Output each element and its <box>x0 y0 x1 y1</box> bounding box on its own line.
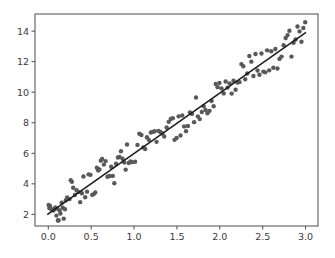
data-point <box>279 54 283 58</box>
data-point <box>103 159 107 163</box>
y-tick-label: 12 <box>17 56 29 67</box>
data-point <box>257 73 261 77</box>
data-point <box>54 213 58 217</box>
data-point <box>233 88 237 92</box>
data-point <box>63 207 67 211</box>
x-tick-label: 0.0 <box>41 231 56 242</box>
data-point <box>215 85 219 89</box>
data-point <box>263 70 267 74</box>
data-point <box>255 68 259 72</box>
data-point <box>301 26 305 30</box>
data-point <box>184 129 188 133</box>
data-point <box>200 110 204 114</box>
data-point <box>259 51 263 55</box>
x-tick-label: 3.0 <box>298 231 313 242</box>
data-point <box>85 189 89 193</box>
data-point <box>152 129 156 133</box>
data-point <box>211 104 215 108</box>
data-point <box>223 79 227 83</box>
data-point <box>303 20 307 24</box>
x-tick-label: 2.5 <box>255 231 270 242</box>
data-point <box>247 54 251 58</box>
data-point <box>139 133 143 137</box>
data-point <box>123 167 127 171</box>
x-tick-label: 1.0 <box>126 231 141 242</box>
data-point <box>273 47 277 51</box>
data-point <box>97 167 101 171</box>
data-point <box>171 116 175 120</box>
data-point <box>180 113 184 117</box>
data-point <box>229 91 233 95</box>
data-point <box>119 149 123 153</box>
data-point <box>198 117 202 121</box>
x-tick-label: 2.0 <box>212 231 227 242</box>
data-point <box>275 66 279 70</box>
y-tick-label: 10 <box>17 87 29 98</box>
data-point <box>78 200 82 204</box>
data-point <box>154 140 158 144</box>
data-point <box>111 174 115 178</box>
data-point <box>249 59 253 63</box>
y-tick-label: 8 <box>23 117 29 128</box>
data-point <box>287 29 291 33</box>
data-point <box>299 40 303 44</box>
data-point <box>267 68 271 72</box>
data-point <box>265 48 269 52</box>
data-point <box>133 160 137 164</box>
data-point <box>88 173 92 177</box>
data-point <box>83 195 87 199</box>
y-tick-label: 6 <box>23 148 29 159</box>
axes-area: 0.00.51.01.52.02.53.0 2468101214 <box>17 14 318 242</box>
data-point <box>58 211 62 215</box>
data-point <box>207 109 211 113</box>
data-point <box>182 124 186 128</box>
data-point <box>285 33 289 37</box>
data-point <box>289 54 293 58</box>
data-point <box>62 216 66 220</box>
data-point <box>297 29 301 33</box>
x-tick-label: 0.5 <box>84 231 99 242</box>
data-point <box>295 24 299 28</box>
data-point <box>192 120 196 124</box>
data-point <box>269 49 273 53</box>
data-point <box>125 142 129 146</box>
scatter-plot: 0.00.51.01.52.02.53.0 2468101214 <box>0 0 335 258</box>
data-point <box>194 95 198 99</box>
data-point <box>243 77 247 81</box>
data-point <box>93 190 97 194</box>
y-tick-label: 14 <box>17 26 29 37</box>
y-tick-label: 2 <box>23 209 29 220</box>
y-tick-label: 4 <box>23 178 29 189</box>
data-point <box>112 181 116 185</box>
data-point <box>81 174 85 178</box>
data-point <box>162 134 166 138</box>
x-tick-label: 1.5 <box>169 231 184 242</box>
matplotlib-figure: 0.00.51.01.52.02.53.0 2468101214 <box>0 0 335 258</box>
data-point <box>251 74 255 78</box>
data-point <box>178 133 182 137</box>
data-point <box>253 52 257 56</box>
data-point <box>241 64 245 68</box>
data-point <box>176 114 180 118</box>
data-point <box>217 81 221 85</box>
data-point <box>56 218 60 222</box>
data-point <box>135 143 139 147</box>
data-point <box>70 180 74 184</box>
data-point <box>174 136 178 140</box>
data-point <box>186 124 190 128</box>
data-point <box>271 66 275 70</box>
